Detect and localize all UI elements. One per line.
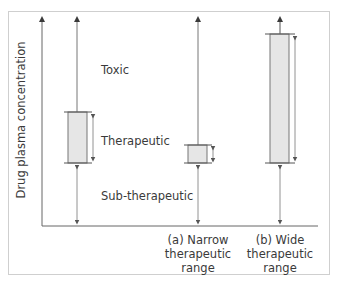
category-label-wide: (b) Wide therapeutic range — [235, 233, 325, 275]
category-label-line: (b) Wide — [235, 233, 325, 247]
y-axis-label: Drug plasma concentration — [14, 42, 28, 199]
zone-label-therapeutic: Therapeutic — [101, 134, 170, 148]
category-label-narrow: (a) Narrow therapeutic range — [153, 233, 243, 275]
category-label-line: (a) Narrow — [153, 233, 243, 247]
category-label-line: range — [235, 261, 325, 275]
zone-label-toxic: Toxic — [101, 63, 129, 77]
category-label-line: therapeutic — [153, 247, 243, 261]
category-label-line: therapeutic — [235, 247, 325, 261]
wide-range-column — [265, 19, 295, 222]
category-label-line: range — [153, 261, 243, 275]
zone-label-sub-therapeutic: Sub-therapeutic — [101, 189, 193, 203]
reference-column — [64, 19, 93, 222]
